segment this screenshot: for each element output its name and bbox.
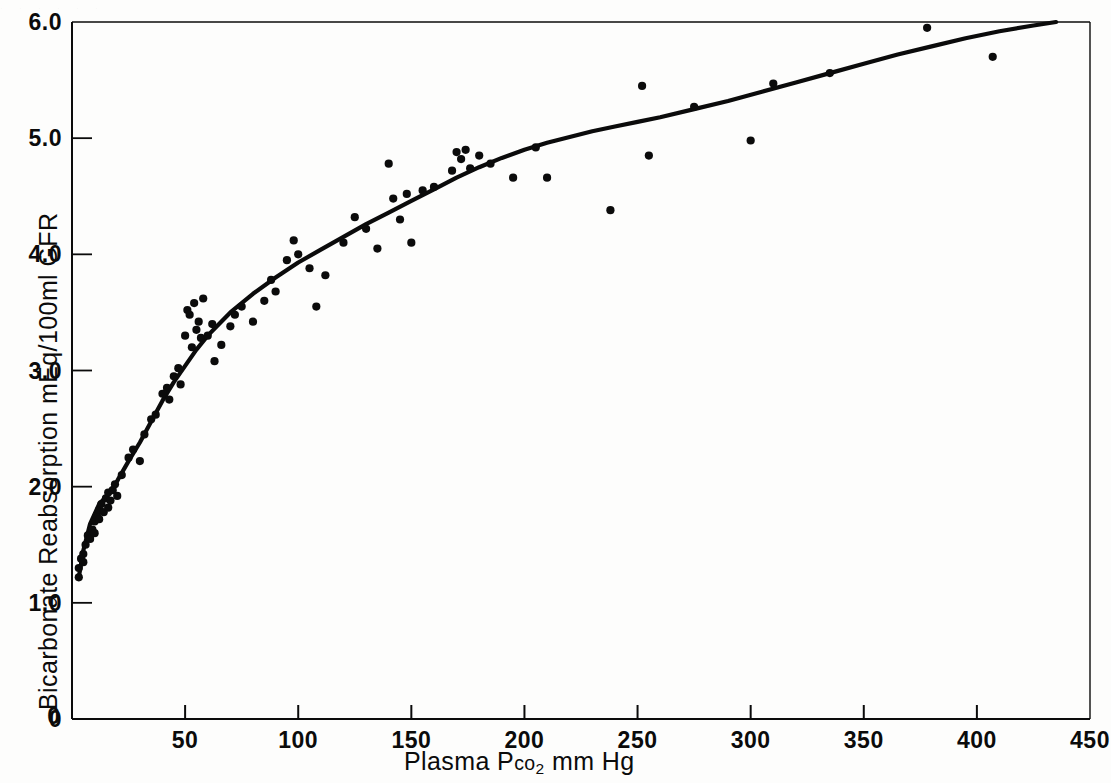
data-point xyxy=(272,287,280,295)
data-point xyxy=(79,550,87,558)
x-tick-label: 100 xyxy=(278,727,318,754)
data-point xyxy=(396,215,404,223)
scatter-points xyxy=(75,24,997,582)
y-tick-label: 6.0 xyxy=(0,9,62,36)
x-tick-label: 250 xyxy=(618,727,658,754)
data-point xyxy=(79,558,87,566)
data-point xyxy=(75,573,83,581)
x-tick-label: 200 xyxy=(505,727,545,754)
data-point xyxy=(305,264,313,272)
data-point xyxy=(747,136,755,144)
data-point xyxy=(95,515,103,523)
data-point xyxy=(486,160,494,168)
data-point xyxy=(113,492,121,500)
x-axis-title-subscript: 2 xyxy=(536,760,545,777)
axis-ticks xyxy=(72,138,977,719)
data-point xyxy=(91,529,99,537)
y-tick-label: 1.0 xyxy=(0,589,62,616)
data-point xyxy=(466,164,474,172)
x-tick-label: 450 xyxy=(1070,727,1110,754)
data-point xyxy=(989,53,997,61)
y-tick-label: 0 xyxy=(0,706,62,733)
data-point xyxy=(267,276,275,284)
data-point xyxy=(170,372,178,380)
data-point xyxy=(606,206,614,214)
data-point xyxy=(195,318,203,326)
data-point xyxy=(312,303,320,311)
x-tick-label: 50 xyxy=(172,727,199,754)
data-point xyxy=(176,380,184,388)
data-point xyxy=(283,256,291,264)
data-point xyxy=(136,457,144,465)
data-point xyxy=(532,143,540,151)
x-tick-label: 300 xyxy=(731,727,771,754)
data-point xyxy=(690,103,698,111)
data-point xyxy=(188,343,196,351)
data-point xyxy=(104,503,112,511)
data-point xyxy=(192,326,200,334)
fitted-curve-path xyxy=(79,22,1056,577)
data-point xyxy=(385,160,393,168)
data-point xyxy=(238,303,246,311)
data-point xyxy=(208,320,216,328)
data-point xyxy=(181,332,189,340)
data-point xyxy=(165,395,173,403)
data-point xyxy=(373,244,381,252)
data-point xyxy=(419,186,427,194)
data-point xyxy=(403,190,411,198)
data-point xyxy=(231,311,239,319)
data-point xyxy=(448,167,456,175)
data-point xyxy=(111,480,119,488)
data-point xyxy=(462,146,470,154)
data-point xyxy=(210,357,218,365)
data-point xyxy=(163,384,171,392)
y-tick-label: 2.0 xyxy=(0,473,62,500)
data-point xyxy=(430,183,438,191)
data-point xyxy=(339,239,347,247)
y-tick-label: 4.0 xyxy=(0,241,62,268)
data-point xyxy=(140,430,148,438)
data-point xyxy=(294,250,302,258)
x-axis-title-smallcaps: co xyxy=(514,752,535,774)
data-point xyxy=(199,294,207,302)
data-point xyxy=(290,236,298,244)
y-tick-label: 5.0 xyxy=(0,125,62,152)
data-point xyxy=(638,82,646,90)
data-point xyxy=(190,299,198,307)
figure-container: . , . , . , . , . , . Bicarbonate Reabso… xyxy=(0,0,1111,783)
fitted-curve xyxy=(79,22,1056,577)
data-point xyxy=(923,24,931,32)
data-point xyxy=(452,148,460,156)
y-tick-label: 3.0 xyxy=(0,357,62,384)
data-point xyxy=(186,311,194,319)
data-point xyxy=(249,318,257,326)
data-point xyxy=(769,79,777,87)
data-point xyxy=(204,332,212,340)
data-point xyxy=(645,151,653,159)
x-tick-label: 150 xyxy=(391,727,431,754)
data-point xyxy=(118,471,126,479)
data-point xyxy=(362,225,370,233)
data-point xyxy=(826,69,834,77)
data-point xyxy=(124,454,132,462)
x-tick-label: 400 xyxy=(957,727,997,754)
axes-frame xyxy=(72,22,1090,719)
data-point xyxy=(407,239,415,247)
data-point xyxy=(509,174,517,182)
data-point xyxy=(152,411,160,419)
data-point xyxy=(389,194,397,202)
data-point xyxy=(217,341,225,349)
data-point xyxy=(321,271,329,279)
data-point xyxy=(106,497,114,505)
data-point xyxy=(543,174,551,182)
data-point xyxy=(457,155,465,163)
data-point xyxy=(260,297,268,305)
data-point xyxy=(174,364,182,372)
x-tick-label: 350 xyxy=(844,727,884,754)
chart-plot-area xyxy=(0,0,1111,783)
data-point xyxy=(226,322,234,330)
data-point xyxy=(351,213,359,221)
data-point xyxy=(475,151,483,159)
data-point xyxy=(129,445,137,453)
